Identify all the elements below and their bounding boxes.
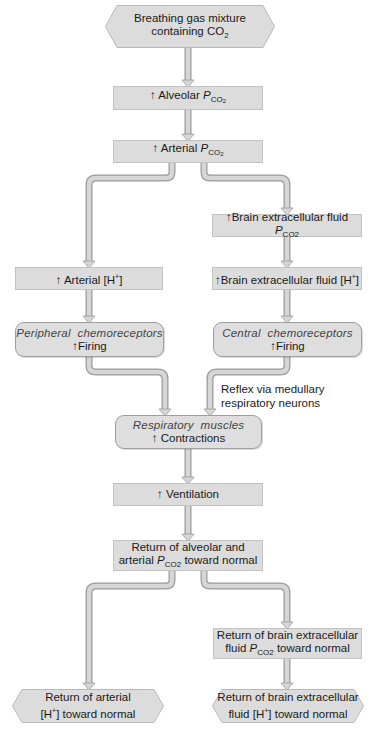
node-return-brain-ecf-pco2: Return of brain extracellular fluid PCO2… bbox=[213, 628, 362, 659]
arterial-label: Arterial bbox=[161, 142, 197, 154]
up-arrow-icon: ↑ bbox=[56, 274, 62, 286]
arterial-h-text: ↑ Arterial [H+] bbox=[56, 270, 123, 287]
node-respiratory-muscles: Respiratory muscles ↑ Contractions bbox=[115, 415, 262, 449]
up-arrow-icon: ↑ bbox=[153, 142, 159, 154]
start-line2: containing CO2 bbox=[134, 25, 246, 42]
node-ventilation: ↑ Ventilation bbox=[113, 483, 263, 506]
ventilation-label: Ventilation bbox=[166, 488, 219, 500]
p-symbol: P bbox=[157, 554, 165, 566]
node-arterial-h: ↑ Arterial [H+] bbox=[15, 267, 163, 290]
return-brain-pco2-line2: fluid PCO2 toward normal bbox=[225, 642, 350, 659]
bracket-close: ] bbox=[356, 274, 359, 286]
start-line1: Breathing gas mixture bbox=[134, 12, 246, 25]
prefix: fluid [H bbox=[228, 708, 264, 720]
up-arrow-icon: ↑ bbox=[152, 432, 158, 444]
reflex-line2: respiratory neurons bbox=[221, 396, 325, 410]
alveolar-label: Alveolar bbox=[158, 89, 200, 101]
co2-sub: CO2 bbox=[257, 648, 273, 657]
return-alveolar-line2: arterial PCO2 toward normal bbox=[119, 554, 258, 571]
suffix: ] toward normal bbox=[56, 708, 135, 720]
brain-pco2-text: ↑Brain extracellular fluid PCO2 bbox=[213, 211, 361, 241]
line1: Return of arterial bbox=[41, 691, 136, 704]
brain-pco2-label: Brain extracellular fluid bbox=[232, 211, 348, 223]
node-return-arterial-h: Return of arterial [H+] toward normal bbox=[12, 689, 164, 723]
bracket-close: ] bbox=[119, 274, 122, 286]
start-node-text: Breathing gas mixture containing CO2 bbox=[134, 12, 246, 42]
ventilation-text: ↑ Ventilation bbox=[157, 488, 219, 501]
central-title: Central chemoreceptors bbox=[222, 327, 353, 340]
p-symbol: P bbox=[275, 224, 283, 236]
node-brain-ecf-h: ↑Brain extracellular fluid [H+] bbox=[212, 267, 362, 290]
muscles-action: ↑ Contractions bbox=[152, 432, 226, 445]
up-arrow-icon: ↑ bbox=[157, 488, 163, 500]
firing-label: Firing bbox=[276, 340, 305, 352]
reflex-line1: Reflex via medullary bbox=[221, 382, 325, 396]
line2: [H+] toward normal bbox=[41, 704, 136, 721]
node-brain-ecf-pco2: ↑Brain extracellular fluid PCO2 bbox=[212, 214, 362, 237]
contractions-label: Contractions bbox=[161, 432, 226, 444]
reflex-annotation: Reflex via medullary respiratory neurons bbox=[221, 382, 325, 410]
return-brain-h-text: Return of brain extracellular fluid [H+]… bbox=[217, 691, 358, 721]
line2: fluid [H+] toward normal bbox=[217, 704, 358, 721]
p-symbol: P bbox=[200, 142, 208, 154]
prefix: arterial bbox=[119, 554, 154, 566]
peripheral-title: Peripheral chemoreceptors bbox=[16, 327, 162, 340]
return-alveolar-line1: Return of alveolar and bbox=[131, 541, 244, 554]
start-node-breathing-gas: Breathing gas mixture containing CO2 bbox=[105, 5, 275, 48]
suffix: toward normal bbox=[277, 642, 350, 654]
node-arterial-pco2: ↑ Arterial PCO2 bbox=[113, 140, 263, 163]
prefix: fluid bbox=[225, 642, 246, 654]
start-line2-prefix: containing CO bbox=[151, 25, 224, 37]
suffix: toward normal bbox=[184, 554, 257, 566]
up-arrow-icon: ↑ bbox=[150, 89, 156, 101]
muscles-title: Respiratory muscles bbox=[133, 419, 244, 432]
prefix: [H bbox=[41, 708, 53, 720]
node-peripheral-chemoreceptors: Peripheral chemoreceptors ↑Firing bbox=[15, 322, 164, 357]
co-text: CO bbox=[208, 148, 220, 157]
two-text: 2 bbox=[220, 151, 223, 157]
alveolar-text: ↑ Alveolar PCO2 bbox=[150, 89, 226, 108]
central-action: ↑Firing bbox=[270, 340, 305, 353]
suffix: ] toward normal bbox=[268, 708, 347, 720]
node-central-chemoreceptors: Central chemoreceptors ↑Firing bbox=[213, 322, 362, 357]
node-alveolar-pco2: ↑ Alveolar PCO2 bbox=[113, 86, 263, 110]
co2-sub: CO2 bbox=[165, 560, 181, 569]
start-line2-sub: 2 bbox=[224, 31, 228, 40]
two-text: 2 bbox=[223, 98, 226, 104]
return-brain-pco2-line1: Return of brain extracellular bbox=[217, 629, 358, 642]
firing-label: Firing bbox=[78, 340, 107, 352]
arterial-pco2-text: ↑ Arterial PCO2 bbox=[153, 142, 224, 161]
connector-arrows bbox=[0, 0, 386, 734]
node-return-alveolar-arterial-pco2: Return of alveolar and arterial PCO2 tow… bbox=[113, 540, 263, 571]
brain-h-text: ↑Brain extracellular fluid [H+] bbox=[215, 270, 359, 287]
node-return-brain-ecf-h: Return of brain extracellular fluid [H+]… bbox=[212, 689, 364, 723]
co2-sub: CO2 bbox=[283, 230, 299, 239]
arterial-h-label: Arterial [H bbox=[64, 274, 115, 286]
co2-sub: CO2 bbox=[211, 95, 226, 104]
return-arterial-h-text: Return of arterial [H+] toward normal bbox=[41, 691, 136, 721]
brain-h-label: Brain extracellular fluid [H bbox=[221, 274, 352, 286]
co2-sub: CO2 bbox=[208, 148, 223, 157]
co-text: CO bbox=[211, 95, 223, 104]
p-symbol: P bbox=[203, 89, 211, 101]
line1: Return of brain extracellular bbox=[217, 691, 358, 704]
peripheral-action: ↑Firing bbox=[72, 340, 107, 353]
